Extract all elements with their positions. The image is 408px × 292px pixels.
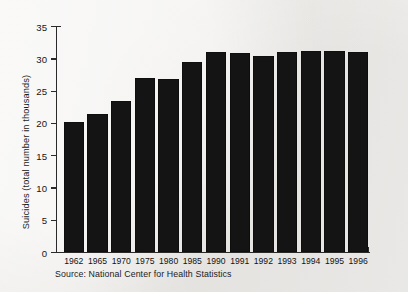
y-axis-tick: 15: [51, 155, 56, 156]
y-axis-tick: 20: [51, 123, 56, 124]
bar: [253, 56, 273, 252]
x-axis-tick-label: 1995: [323, 256, 347, 266]
y-axis-tick: 35: [51, 26, 56, 27]
x-axis-tick-label: 1992: [252, 256, 276, 266]
bar-chart-figure: Suicides (total number in thousands) 051…: [0, 0, 408, 292]
x-axis-tick-label: 1985: [180, 256, 204, 266]
y-axis-title: Suicides (total number in thousands): [14, 26, 38, 278]
x-axis-tick-label: 1994: [299, 256, 323, 266]
x-axis-tick-label: 1970: [109, 256, 133, 266]
y-axis-tick-label: 15: [36, 150, 47, 161]
y-axis-tick-label: 35: [36, 21, 47, 32]
bar: [348, 52, 368, 252]
bar: [111, 101, 131, 252]
bar: [87, 114, 107, 252]
bar: [206, 52, 226, 252]
y-axis-tick: 30: [51, 58, 56, 59]
x-axis-tick-label: 1990: [204, 256, 228, 266]
bar: [158, 79, 178, 252]
y-axis-tick-label: 20: [36, 118, 47, 129]
x-axis-line: [56, 252, 370, 253]
y-axis-tick-label: 5: [42, 215, 47, 226]
y-axis-tick-label: 0: [42, 247, 47, 258]
y-axis-tick: 5: [51, 220, 56, 221]
y-axis-top-cap: [56, 26, 61, 27]
bar: [64, 122, 84, 252]
bar: [277, 52, 297, 252]
x-axis-tick-label: 1996: [346, 256, 370, 266]
x-axis-tick-label: 1980: [157, 256, 181, 266]
y-axis-line: [56, 26, 57, 253]
y-axis-tick: 10: [51, 187, 56, 188]
x-axis-tick-label: 1993: [275, 256, 299, 266]
bar: [182, 62, 202, 252]
bar: [324, 51, 344, 252]
y-axis-tick-label: 10: [36, 183, 47, 194]
y-axis-tick-label: 30: [36, 53, 47, 64]
bar: [301, 51, 321, 252]
x-axis-tick-label: 1962: [62, 256, 86, 266]
plot-area: 05101520253035 1962196519701975198019851…: [62, 26, 370, 252]
x-axis-tick-label: 1965: [86, 256, 110, 266]
bar: [135, 78, 155, 252]
x-axis-tick-label: 1975: [133, 256, 157, 266]
source-note: Source: National Center for Health Stati…: [55, 269, 232, 279]
y-axis-tick: 0: [51, 252, 56, 253]
y-axis-tick-label: 25: [36, 86, 47, 97]
bar: [230, 53, 250, 252]
x-axis-tick-label: 1991: [228, 256, 252, 266]
y-axis-tick: 25: [51, 91, 56, 92]
